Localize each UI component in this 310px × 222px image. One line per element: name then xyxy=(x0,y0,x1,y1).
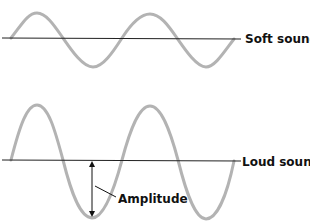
loud-sound-label: Loud sound xyxy=(242,155,310,169)
soft-sound-wave xyxy=(11,13,234,67)
loud-sound-rest-line xyxy=(2,160,241,161)
sound-wave-diagram: Soft sound Loud sound Amplitude xyxy=(0,0,310,222)
soft-sound-rest-line xyxy=(2,38,241,39)
soft-sound-label: Soft sound xyxy=(245,32,310,46)
soft-sound-group: Soft sound xyxy=(2,13,310,67)
amplitude-label: Amplitude xyxy=(118,192,188,206)
